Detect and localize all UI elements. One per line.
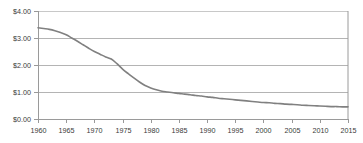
x-axis-tick-label: 2015 (341, 126, 357, 135)
x-axis-tick-label: 1975 (116, 126, 132, 135)
x-axis-ticks-group: 1960196519701975198019851990199520002005… (31, 119, 357, 135)
y-axis-tick-label: $4.00 (13, 7, 31, 16)
x-axis-tick-label: 1980 (144, 126, 160, 135)
x-axis-tick-label: 2005 (285, 126, 301, 135)
chart-canvas: $0.00$1.00$2.00$3.00$4.00 19601965197019… (0, 0, 363, 143)
x-axis-tick-label: 1970 (87, 126, 103, 135)
y-axis-tick-label: $3.00 (13, 34, 31, 43)
x-axis-tick-label: 2000 (256, 126, 272, 135)
line-chart: $0.00$1.00$2.00$3.00$4.00 19601965197019… (0, 0, 363, 143)
y-axis-tick-label: $0.00 (13, 115, 31, 124)
y-axis-tick-label: $2.00 (13, 61, 31, 70)
x-axis-tick-label: 1965 (59, 126, 75, 135)
x-axis-tick-label: 1995 (228, 126, 244, 135)
y-axis-tick-label: $1.00 (13, 88, 31, 97)
x-axis-tick-label: 1960 (31, 126, 47, 135)
y-axis-ticks-group: $0.00$1.00$2.00$3.00$4.00 (13, 7, 38, 124)
x-axis-tick-label: 1985 (172, 126, 188, 135)
x-axis-tick-label: 1990 (200, 126, 216, 135)
x-axis-tick-label: 2010 (313, 126, 329, 135)
